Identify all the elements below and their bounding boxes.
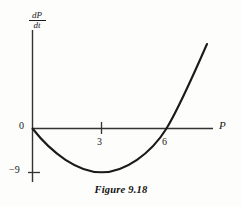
origin-label: 0 [19,120,24,131]
x-tick-label-3: 3 [97,136,102,147]
figure-container: dP dt 0 3 6 −9 P Figure 9.18 [0,0,242,207]
y-tick-label-minus-9: −9 [9,164,20,175]
x-axis-label: P [219,119,226,131]
y-axis-label-denominator: dt [22,21,52,30]
parabola-curve [33,44,208,172]
y-axis-label: dP dt [22,11,52,31]
plot-canvas [0,0,242,207]
figure-caption: Figure 9.18 [0,184,242,195]
x-tick-label-6: 6 [162,136,167,147]
y-axis-label-numerator: dP [22,11,52,20]
